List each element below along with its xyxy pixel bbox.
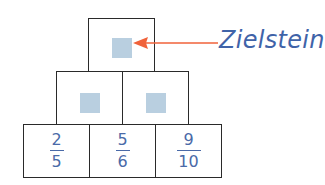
target-label: Zielstein xyxy=(219,26,325,54)
